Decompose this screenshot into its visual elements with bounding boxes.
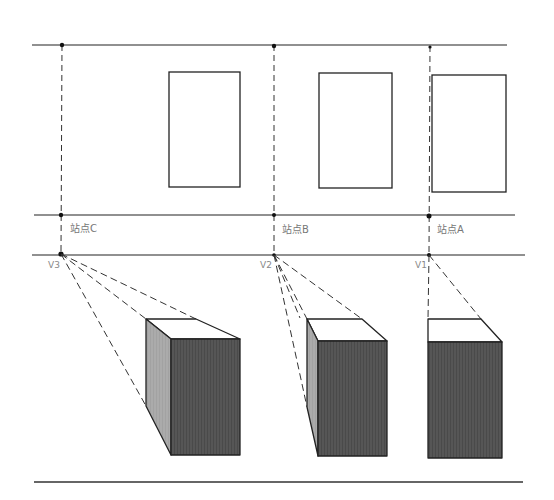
box-a (428, 319, 502, 458)
station-label-a: 站点A (437, 223, 464, 235)
vp-label-v2: V2 (260, 260, 272, 270)
projection-line-a (429, 46, 430, 255)
box-b-top (307, 319, 387, 341)
projection-line-c (61, 45, 62, 254)
vp-label-v3: V3 (48, 260, 60, 270)
ray-v3-sidebottom (61, 254, 146, 406)
perspective-diagram: 站点C 站点B 站点A V3 V2 V1 (0, 0, 554, 500)
box-b-side (307, 319, 318, 456)
station-point-b (272, 213, 276, 217)
box-b (307, 319, 387, 456)
plan-rect-b (319, 73, 392, 188)
box-a-front (428, 342, 502, 458)
ray-v1-backleft (428, 255, 429, 319)
ray-v2-sidebottom (274, 255, 307, 407)
station-label-b: 站点B (282, 223, 309, 235)
top-point-c (60, 43, 64, 47)
ray-v3-backleft (61, 254, 146, 319)
vp-label-v1: V1 (415, 260, 427, 270)
station-point-c (59, 213, 63, 217)
plan-rect-a (432, 75, 506, 192)
ray-v1-backright (429, 255, 481, 319)
box-a-top (428, 319, 502, 342)
ray-v3-backright (61, 254, 196, 319)
box-c-side (146, 319, 171, 455)
box-b-front (318, 341, 387, 456)
plan-rect-c (169, 72, 240, 187)
ray-v2-backleft (274, 255, 307, 319)
station-point-a (427, 214, 432, 219)
station-label-c: 站点C (70, 222, 97, 234)
top-point-b (272, 44, 276, 48)
top-point-a (428, 45, 431, 48)
box-c (146, 319, 240, 455)
box-c-front (171, 339, 240, 455)
